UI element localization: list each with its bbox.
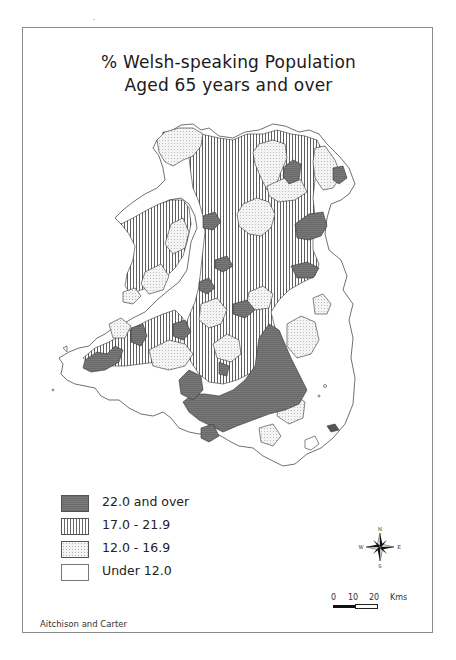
legend-swatch-dark: [61, 495, 89, 512]
legend-swatch-vertical-hatch: [61, 518, 89, 535]
legend-label: 22.0 and over: [102, 494, 189, 509]
legend-swatch-blank: [61, 564, 89, 581]
compass-s: S: [378, 563, 382, 569]
scale-unit: Kms: [390, 593, 407, 602]
scan-speck: [93, 19, 95, 20]
legend-swatch-dots: [61, 541, 89, 558]
map-frame: % Welsh-speaking Population Aged 65 year…: [22, 27, 433, 633]
scale-tick-20: 20: [369, 593, 379, 602]
scale-segment-white: [355, 604, 378, 609]
compass-e: E: [397, 544, 401, 550]
credit-text: Aitchison and Carter: [40, 619, 127, 629]
scale-segment-black: [333, 605, 355, 608]
legend-label: Under 12.0: [102, 563, 172, 578]
legend-item-22-and-over: 22.0 and over: [61, 493, 261, 516]
scale-tick-0: 0: [331, 593, 336, 602]
scale-tick-10: 10: [348, 593, 358, 602]
legend-item-12-16-9: 12.0 - 16.9: [61, 539, 261, 562]
legend: 22.0 and over 17.0 - 21.9 12.0 - 16.9 Un…: [61, 493, 261, 585]
legend-label: 17.0 - 21.9: [102, 517, 170, 532]
compass-w: W: [358, 544, 364, 550]
legend-label: 12.0 - 16.9: [102, 540, 170, 555]
compass-rose-icon: N S W E: [358, 525, 402, 569]
legend-item-17-21-9: 17.0 - 21.9: [61, 516, 261, 539]
scale-bar: 0 10 20 Kms: [333, 593, 433, 613]
legend-item-under-12: Under 12.0: [61, 562, 261, 585]
compass-n: N: [378, 526, 383, 532]
